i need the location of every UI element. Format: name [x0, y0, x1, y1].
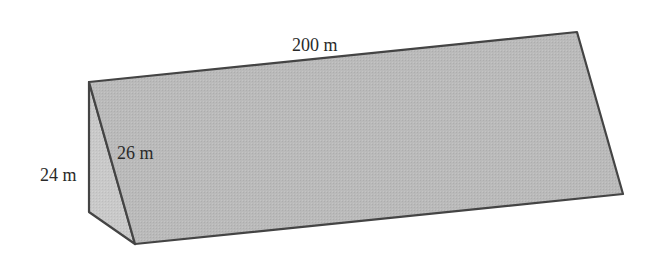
slanted-rectangular-face [89, 32, 623, 244]
length-label: 200 m [292, 35, 338, 55]
slant-label: 26 m [117, 143, 154, 163]
prism-diagram: 200 m 26 m 24 m [0, 0, 651, 269]
height-label: 24 m [40, 165, 77, 185]
prism-svg: 200 m 26 m 24 m [0, 0, 651, 269]
